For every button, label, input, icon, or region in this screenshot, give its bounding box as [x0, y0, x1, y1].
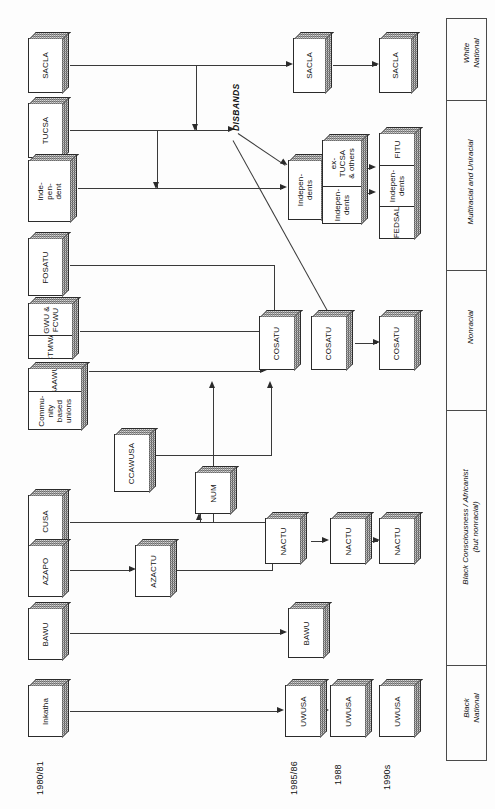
box-side-face: [300, 512, 307, 565]
node-gwu-fcwu-ctmwa-1980[interactable]: GWU & FCWU CTMWA: [28, 303, 73, 359]
node-saawu-community-1980[interactable]: SAAWU Commu- nity based unions: [28, 368, 82, 430]
edge-indep1-indep2: [78, 188, 283, 189]
node-cell: TUCSA: [29, 104, 62, 157]
node-tucsa-1980[interactable]: TUCSA: [28, 103, 63, 158]
node-label: FEDSAL: [392, 207, 401, 238]
node-label: AZAPO: [41, 557, 50, 585]
box-side-face: [62, 602, 69, 661]
edge-sacla-drop: [196, 65, 197, 130]
box-side-face: [62, 32, 69, 94]
node-independent-1980[interactable]: Inde- pen- dent: [28, 160, 71, 222]
timeline-label-1988: 1988: [334, 764, 344, 785]
edge-cusa-num-rise: [200, 513, 201, 523]
category-divider: [446, 100, 487, 101]
edge-fosatu-drop: [274, 265, 275, 315]
node-azapo-1980[interactable]: AZAPO: [28, 545, 63, 597]
category-label-black-consciousness: Black Consciousness / Africanist (but no…: [461, 402, 480, 652]
node-label: Indepen- dents: [388, 170, 406, 202]
node-cosatu-1985[interactable]: COSATU: [259, 316, 295, 370]
node-uwusa-1988[interactable]: UWUSA: [330, 685, 366, 737]
node-label: CUSA: [41, 510, 50, 533]
node-inkatha-1980[interactable]: Inkatha: [28, 685, 63, 737]
box-side-face: [365, 679, 372, 738]
arrowhead-nactu3-in: [322, 537, 329, 543]
node-cell: UWUSA: [331, 686, 365, 736]
node-cosatu-1988[interactable]: COSATU: [311, 316, 347, 370]
node-fitu-independents-fedsal-1990s[interactable]: FITU Indepen- dents FEDSAL: [379, 133, 415, 239]
node-nactu-1990s[interactable]: NACTU: [379, 518, 415, 564]
node-label: AZACTU: [148, 555, 157, 588]
node-label: BAWU: [41, 622, 50, 646]
category-inner-rail: [446, 100, 447, 271]
arrowhead-extucsa-fitu: [369, 164, 376, 170]
node-label: ex- TUCSA & others: [329, 148, 356, 179]
node-cell: UWUSA: [286, 686, 320, 736]
node-label: SACLA: [41, 52, 50, 79]
node-cell: NACTU: [266, 519, 300, 563]
edge-tucsa-disbands: [70, 130, 230, 131]
node-label: COSATU: [393, 326, 402, 359]
node-sacla-1985[interactable]: SACLA: [293, 38, 326, 93]
node-label: Indepen- dents: [333, 189, 351, 221]
node-cell: BAWU: [29, 609, 62, 659]
edge-cusa-run: [70, 522, 270, 523]
edge-azactu-run: [173, 570, 273, 571]
box-side-face: [62, 232, 69, 297]
node-label: CTMWA: [46, 335, 55, 358]
box-side-face: [62, 539, 69, 598]
node-cosatu-1990s[interactable]: COSATU: [379, 316, 415, 370]
box-side-face: [149, 428, 156, 493]
category-outer-rail: [486, 18, 487, 760]
node-cell: NACTU: [331, 519, 365, 563]
node-sacla-1980[interactable]: SACLA: [28, 38, 63, 93]
annotation-disbands: DISBANDS: [232, 83, 242, 131]
node-bawu-1985[interactable]: BAWU: [288, 608, 324, 658]
node-label: SAAWU: [50, 369, 59, 391]
box-side-face: [62, 679, 69, 738]
node-cell: GWU & FCWU: [29, 304, 72, 335]
box-side-face: [365, 512, 372, 565]
edge-bawu1-bawu2: [70, 633, 283, 634]
node-num-1983[interactable]: NUM: [195, 472, 231, 514]
node-label: UWUSA: [344, 696, 353, 726]
node-label: NACTU: [344, 527, 353, 555]
timeline-label-1990s: 1990s: [383, 764, 393, 790]
category-label-black-national: Black National: [462, 668, 481, 748]
node-sacla-1990s[interactable]: SACLA: [379, 38, 412, 93]
timeline-label-1980-81: 1980/81: [36, 761, 46, 795]
node-ex-tucsa-independents-1985[interactable]: ex- TUCSA & others Indepen- dents: [322, 140, 362, 224]
arrowhead-uwusa2-in: [277, 707, 284, 713]
box-side-face: [361, 134, 368, 225]
node-fosatu-1980[interactable]: FOSATU: [28, 238, 63, 296]
node-cell: BAWU: [289, 609, 323, 657]
node-label: CCAWUSA: [128, 442, 137, 483]
node-nactu-1985[interactable]: NACTU: [265, 518, 301, 564]
node-azactu-1983[interactable]: AZACTU: [135, 545, 171, 597]
category-label-multiracial: Multiracial and Uniracial: [466, 102, 476, 262]
node-bawu-1980[interactable]: BAWU: [28, 608, 63, 660]
node-cell: FITU: [380, 134, 414, 165]
node-label: FITU: [393, 140, 402, 158]
node-cell: SACLA: [294, 39, 325, 92]
box-side-face: [170, 539, 177, 598]
box-side-face: [411, 32, 418, 94]
edge-sacla2-sacla4: [333, 65, 377, 66]
category-inner-rail: [446, 270, 447, 411]
node-ccawusa-1980[interactable]: CCAWUSA: [114, 434, 150, 492]
node-label: NUM: [209, 484, 218, 503]
node-label: FOSATU: [41, 251, 50, 283]
arrowhead-extucsa-indep4: [369, 189, 376, 195]
category-label-white-national: White National: [462, 18, 481, 88]
node-nactu-1988[interactable]: NACTU: [330, 518, 366, 564]
category-label-nonracial: Nonracial: [466, 262, 476, 392]
node-cell: Inde- pen- dent: [29, 161, 70, 221]
node-label: Indepen- dents: [296, 174, 314, 206]
node-independents-1985[interactable]: Indepen- dents: [288, 160, 322, 220]
node-uwusa-1990s[interactable]: UWUSA: [379, 685, 415, 737]
node-uwusa-1985[interactable]: UWUSA: [285, 685, 321, 737]
node-cell: NACTU: [380, 519, 414, 563]
node-cell: Indepen- dents: [289, 161, 321, 219]
node-label: Commu- nity based unions: [37, 395, 73, 426]
node-label: BAWU: [301, 621, 310, 645]
box-side-face: [72, 297, 79, 360]
